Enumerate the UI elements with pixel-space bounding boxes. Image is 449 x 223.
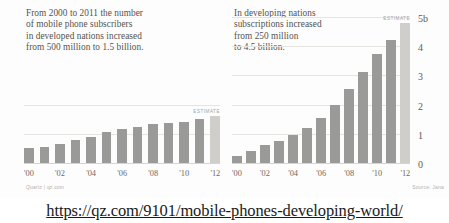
x-tick-blank: . xyxy=(246,169,256,178)
axis-baseline xyxy=(24,163,220,164)
y-tick: 1 xyxy=(418,129,423,140)
bar xyxy=(246,151,256,163)
bar xyxy=(102,132,112,163)
plot-area-developing: ESTIMATE xyxy=(232,18,410,164)
x-axis-ticks-developing: '00.'02.'04.'06.'08.'10.'12 xyxy=(232,169,410,178)
x-tick: '10 xyxy=(372,169,382,178)
x-tick: '08 xyxy=(148,169,158,178)
bar xyxy=(288,135,298,163)
x-tick: '10 xyxy=(179,169,189,178)
chart-panel-developing: In developing nations subscriptions incr… xyxy=(232,8,444,190)
bar xyxy=(210,116,220,163)
x-tick: '00 xyxy=(24,169,34,178)
bar xyxy=(358,72,368,163)
bar xyxy=(179,122,189,163)
x-tick: '02 xyxy=(55,169,65,178)
x-tick-blank: . xyxy=(302,169,312,178)
bar xyxy=(330,105,340,163)
x-tick-blank: . xyxy=(164,169,174,178)
bar xyxy=(117,129,127,163)
y-tick: 4 xyxy=(418,42,423,53)
bar xyxy=(316,118,326,163)
bar xyxy=(260,145,270,163)
bar xyxy=(302,128,312,163)
credit-source-jana: Source: Jana xyxy=(412,184,444,190)
y-tick: 0 xyxy=(418,159,423,170)
x-tick: '12 xyxy=(400,169,410,178)
x-tick: '04 xyxy=(288,169,298,178)
x-tick-blank: . xyxy=(133,169,143,178)
bar-series-developed xyxy=(24,17,220,163)
bar xyxy=(40,147,50,163)
bar xyxy=(71,140,81,163)
x-tick-blank: . xyxy=(102,169,112,178)
x-tick: '06 xyxy=(117,169,127,178)
bar xyxy=(195,119,205,163)
bar xyxy=(164,123,174,163)
x-tick: '06 xyxy=(316,169,326,178)
bar xyxy=(372,54,382,164)
bar xyxy=(55,144,65,163)
bar xyxy=(274,141,284,163)
y-tick: 2 xyxy=(418,100,423,111)
x-tick: '00 xyxy=(232,169,242,178)
x-tick: '02 xyxy=(260,169,270,178)
chart-panel-developed: From 2000 to 2011 the number of mobile p… xyxy=(24,8,220,190)
y-tick: 3 xyxy=(418,71,423,82)
x-tick: '08 xyxy=(344,169,354,178)
bar-series-developing xyxy=(232,17,410,163)
bar xyxy=(232,156,242,163)
plot-area-developed: ESTIMATE xyxy=(24,18,220,164)
credit-quartz: Quartz | qz.com xyxy=(26,184,64,190)
source-url-bar: https://qz.com/9101/mobile-phones-develo… xyxy=(0,198,449,223)
bar xyxy=(24,148,34,163)
y-axis-ticks-developing: 5b43210 xyxy=(414,18,440,164)
bar xyxy=(86,137,96,163)
x-tick: '04 xyxy=(86,169,96,178)
x-tick-blank: . xyxy=(71,169,81,178)
bar xyxy=(148,124,158,163)
x-axis-ticks-developed: '00.'02.'04.'06.'08.'10.'12 xyxy=(24,169,220,178)
x-tick-blank: . xyxy=(330,169,340,178)
infographic-figure: From 2000 to 2011 the number of mobile p… xyxy=(0,0,449,198)
bar xyxy=(386,40,396,163)
bar xyxy=(133,127,143,164)
bar xyxy=(344,89,354,163)
y-tick: 5b xyxy=(418,13,428,24)
source-url-link[interactable]: https://qz.com/9101/mobile-phones-develo… xyxy=(46,201,402,221)
x-tick-blank: . xyxy=(274,169,284,178)
x-tick-blank: . xyxy=(40,169,50,178)
axis-baseline xyxy=(232,163,410,164)
x-tick-blank: . xyxy=(195,169,205,178)
x-tick: '12 xyxy=(210,169,220,178)
x-tick-blank: . xyxy=(358,169,368,178)
x-tick-blank: . xyxy=(386,169,396,178)
bar xyxy=(400,23,410,163)
